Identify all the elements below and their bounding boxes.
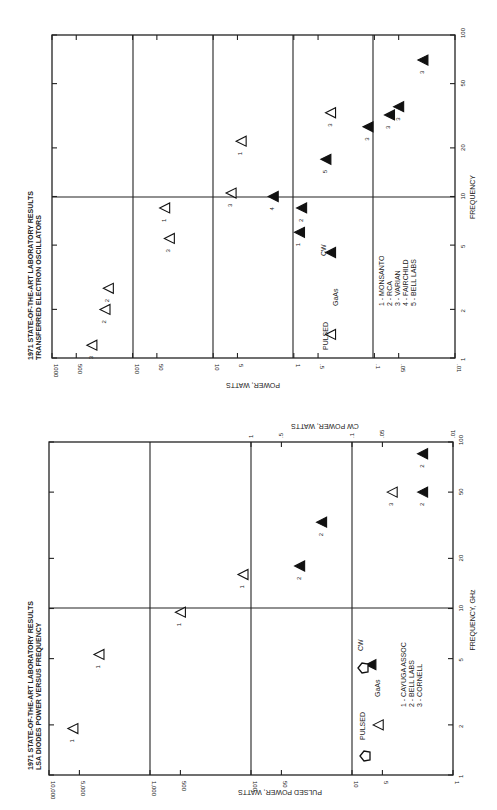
point-label: 4 (269, 207, 275, 211)
svg-text:2 - BELL LABS: 2 - BELL LABS (408, 660, 415, 707)
y-tick-label: 10,000 (50, 781, 56, 800)
point-label: 1 (237, 151, 243, 155)
point-label: 3 (227, 203, 233, 207)
cw-data-point (295, 561, 305, 571)
x-tick-label: 2 (460, 308, 466, 312)
chart-lsa-diodes: 10,0005,0001,000500100501051 1.5.1.05.01… (27, 423, 477, 800)
y-axis-title: POWER, WATTS (226, 382, 280, 389)
y-tick-label: 100 (134, 364, 140, 375)
point-label: 2 (298, 218, 304, 222)
pulsed-data-point (238, 570, 248, 580)
point-label: 2 (101, 319, 107, 323)
y-tick-label: 10 (214, 364, 220, 371)
cw-data-point (363, 122, 373, 132)
point-label: 2 (104, 298, 110, 302)
x-tick-label: 20 (460, 144, 466, 151)
y-tick-label: 50 (158, 364, 164, 371)
point-label: 1 (69, 739, 75, 743)
point-label: 2 (318, 532, 324, 536)
cw-data-point (418, 449, 428, 459)
cw-label: CW (357, 639, 364, 651)
x-axis-title: FREQUENCY (469, 175, 477, 219)
point-label: 2 (419, 464, 425, 468)
point-label: 3 (327, 123, 333, 127)
y-tick-label: 50 (282, 781, 288, 788)
pulsed-label: PULSED (322, 322, 329, 350)
document-page: 1000500100501051.5.1.05.01 125102050100 … (0, 0, 497, 810)
y-tick-label: 500 (77, 364, 83, 375)
cw-data-point (326, 248, 336, 258)
legend: 1 - CAYUGA ASSOC 2 - BELL LABS 3 - CORNE… (400, 642, 423, 707)
marker-symbol-icon (360, 751, 370, 761)
x-tick-label: 10 (460, 192, 466, 199)
y2-tick-label: .1 (349, 432, 355, 438)
point-label: 3 (88, 355, 94, 359)
chart-subtitle: LSA DIODES POWER VERSUS FREQUENCY (35, 622, 43, 770)
chart-title: 1971 STATE-OF-THE-ART LABORATORY RESULTS (27, 601, 34, 770)
point-label: 3 (364, 137, 370, 141)
legend: 1 - MONSANTO 2 - RCA 3 - VARIAN 4 - FAIR… (378, 255, 417, 306)
cw-data-point (321, 154, 331, 164)
x-tick-label: 100 (460, 27, 466, 38)
y-tick-label: 10 (353, 781, 359, 788)
point-label: 1 (176, 622, 182, 626)
chart-subtitle: TRANSFERRED ELECTRON OSCILLATORS (35, 215, 42, 360)
x-tick-label: 2 (458, 724, 464, 728)
point-label: 3 (395, 117, 401, 121)
y-tick-label: .1 (375, 364, 381, 370)
y2-tick-label: .01 (450, 429, 456, 438)
cw-label: CW (320, 244, 327, 256)
y-axis-title: PULSED POWER, WATTS (238, 789, 322, 796)
pulsed-data-point (160, 203, 170, 213)
pulsed-data-point (94, 649, 104, 659)
cw-data-point (297, 203, 307, 213)
svg-text:1 - CAYUGA ASSOC: 1 - CAYUGA ASSOC (400, 642, 407, 707)
gaas-label: GaAs (332, 288, 339, 306)
y2-tick-label: .05 (379, 429, 385, 438)
x-tick-label: 20 (458, 554, 464, 561)
pulsed-data-point (164, 233, 174, 243)
pulsed-data-point (103, 283, 113, 293)
y-tick-label: .5 (319, 364, 325, 370)
y-tick-label: 5 (383, 781, 389, 785)
x-tick-label: 10 (458, 604, 464, 611)
gaas-label: GaAs (374, 679, 381, 697)
svg-text:3 - CORNELL: 3 - CORNELL (416, 664, 423, 707)
point-label: 2 (419, 502, 425, 506)
y-tick-label: 500 (181, 781, 187, 792)
x-tick-label: 50 (458, 488, 464, 495)
y-tick-label: .01 (456, 364, 462, 373)
point-label: 3 (385, 125, 391, 129)
point-label: 1 (161, 218, 167, 222)
point-label: 3 (165, 248, 171, 252)
marker-symbol-icon (358, 663, 368, 673)
svg-text:5 - BELL LABS: 5 - BELL LABS (410, 259, 417, 306)
pulsed-data-point (68, 724, 78, 734)
svg-text:3 - VARIAN: 3 - VARIAN (394, 270, 401, 306)
x-axis-title: FREQUENCY, GHz (469, 589, 477, 650)
pulsed-data-point (387, 487, 397, 497)
y-tick-label: 5,000 (80, 781, 86, 797)
cw-data-point (317, 517, 327, 527)
point-label: 3 (419, 70, 425, 74)
x-tick-label: 5 (460, 244, 466, 248)
point-label: 1 (95, 664, 101, 668)
svg-text:1 - MONSANTO: 1 - MONSANTO (378, 255, 385, 306)
pulsed-data-point (175, 607, 185, 617)
cw-data-point (384, 110, 394, 120)
point-label: 3 (388, 502, 394, 506)
cw-data-point (418, 55, 428, 65)
y-tick-label: 1 (454, 781, 460, 785)
x-tick-label: 50 (460, 79, 466, 86)
svg-text:4 - FAIRCHILD: 4 - FAIRCHILD (402, 259, 409, 306)
y-tick-label: 1,000 (151, 781, 157, 797)
cw-data-point (418, 487, 428, 497)
y-tick-label: 5 (238, 364, 244, 368)
y-tick-label: .05 (400, 364, 406, 373)
y-tick-label: 1 (295, 364, 301, 368)
cw-data-point (294, 227, 304, 237)
x-tick-label: 1 (458, 774, 464, 778)
chart-transferred-electron-oscillators: 1000500100501051.5.1.05.01 125102050100 … (27, 27, 477, 389)
x-tick-label: 1 (460, 357, 466, 361)
point-label: 1 (295, 242, 301, 246)
